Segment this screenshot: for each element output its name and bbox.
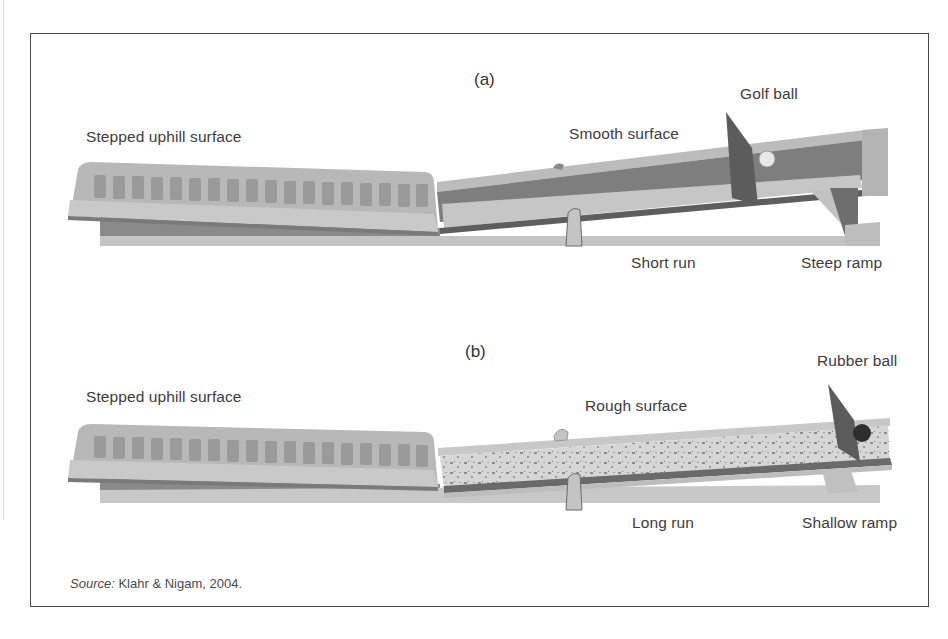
stepped-uphill-surface-b	[68, 424, 438, 491]
source-text: Klahr & Nigam, 2004.	[115, 576, 242, 591]
source-prefix: Source:	[70, 576, 115, 591]
rubber-ball-icon	[853, 424, 871, 442]
source-citation: Source: Klahr & Nigam, 2004.	[70, 576, 242, 591]
ramp-illustrations	[0, 0, 948, 639]
label-stepped-uphill-b: Stepped uphill surface	[86, 388, 242, 406]
label-short-run: Short run	[631, 254, 696, 272]
label-rough-surface: Rough surface	[585, 397, 687, 415]
label-rubber-ball: Rubber ball	[817, 352, 897, 370]
panel-label-a: (a)	[474, 70, 495, 90]
label-long-run: Long run	[632, 514, 694, 532]
panel-label-b: (b)	[465, 342, 486, 362]
label-golf-ball: Golf ball	[740, 85, 798, 103]
label-stepped-uphill-a: Stepped uphill surface	[86, 128, 242, 146]
label-shallow-ramp: Shallow ramp	[802, 514, 897, 532]
golf-ball-icon	[759, 151, 775, 167]
label-smooth-surface: Smooth surface	[569, 125, 679, 143]
label-steep-ramp: Steep ramp	[801, 254, 882, 272]
smooth-surface-a	[437, 128, 888, 234]
